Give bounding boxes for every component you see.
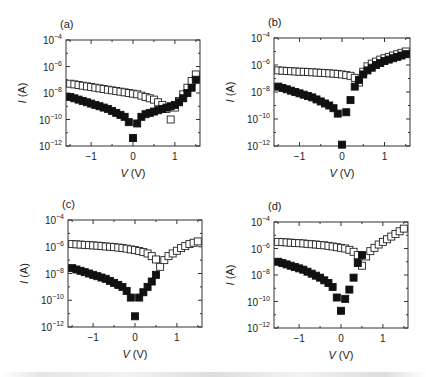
data-point-filled <box>333 294 340 301</box>
y-tick-label: 10−10 <box>247 295 270 308</box>
data-point-filled <box>339 141 346 148</box>
panel-label: (a) <box>60 18 73 30</box>
data-point-open <box>157 263 164 270</box>
data-point-open <box>194 238 201 245</box>
x-tick-label: 1 <box>172 151 178 162</box>
y-axis-label: I (A) <box>224 265 236 286</box>
y-tick-label: 10−12 <box>247 321 270 334</box>
y-tick-label: 10−6 <box>251 58 270 71</box>
x-tick-label: 0 <box>338 333 344 344</box>
y-tick-label: 10−12 <box>41 320 64 333</box>
x-tick-label: 0 <box>132 332 138 343</box>
y-tick-label: 10−4 <box>251 31 270 44</box>
data-point-filled <box>188 84 195 91</box>
data-point-open <box>167 116 174 123</box>
panel-label: (d) <box>268 200 281 212</box>
x-tick-label: −1 <box>87 332 99 343</box>
data-point-open <box>400 225 407 232</box>
panel-label: (c) <box>62 198 75 210</box>
y-tick-label: 10−4 <box>251 215 270 228</box>
y-tick-label: 10−8 <box>43 86 62 99</box>
y-tick-label: 10−10 <box>39 113 62 126</box>
y-tick-label: 10−8 <box>45 267 64 280</box>
data-point-filled <box>192 76 199 83</box>
data-point-filled <box>358 252 365 259</box>
data-point-filled <box>354 260 361 267</box>
y-tick-label: 10−4 <box>45 213 64 226</box>
y-tick-label: 10−6 <box>45 240 64 253</box>
y-tick-label: 10−10 <box>41 293 64 306</box>
y-tick-label: 10−8 <box>251 85 270 98</box>
data-point-filled <box>132 313 139 320</box>
y-tick-label: 10−6 <box>251 242 270 255</box>
x-tick-label: −1 <box>294 151 306 162</box>
chart-panel-b: (b)10−1210−1010−810−610−4−101V (V)I (A) <box>214 10 426 188</box>
y-tick-label: 10−8 <box>251 268 270 281</box>
data-point-filled <box>152 271 159 278</box>
chart-panel-a: (a)10−1210−1010−810−610−4−101V (V)I (A) <box>6 12 220 188</box>
y-tick-label: 10−12 <box>247 139 270 152</box>
y-tick-label: 10−10 <box>247 112 270 125</box>
x-axis-label: V (V) <box>329 167 354 179</box>
x-tick-label: −1 <box>85 151 97 162</box>
clipped-caption <box>0 372 426 377</box>
data-point-filled <box>350 274 357 281</box>
data-point-filled <box>134 120 141 127</box>
x-tick-label: 1 <box>174 332 180 343</box>
x-tick-label: 1 <box>382 151 388 162</box>
data-point-filled <box>125 119 132 126</box>
data-point-filled <box>338 307 345 314</box>
data-point-filled <box>347 97 354 104</box>
data-point-filled <box>329 283 336 290</box>
panel-label: (b) <box>268 16 281 28</box>
y-axis-label: I (A) <box>18 263 30 284</box>
y-tick-label: 10−12 <box>39 139 62 152</box>
x-axis-label: V (V) <box>122 348 147 360</box>
chart-panel-d: (d)10−1210−1010−810−610−4−101V (V)I (A) <box>214 194 426 370</box>
x-tick-label: 0 <box>339 151 345 162</box>
y-axis-label: I (A) <box>224 82 236 103</box>
data-point-filled <box>123 287 130 294</box>
y-tick-label: 10−4 <box>43 33 62 46</box>
data-point-filled <box>130 135 137 142</box>
x-tick-label: −1 <box>293 333 305 344</box>
x-tick-label: 1 <box>380 333 386 344</box>
data-point-filled <box>127 294 134 301</box>
data-point-open <box>152 256 159 263</box>
x-axis-label: V (V) <box>120 167 145 179</box>
data-point-filled <box>342 295 349 302</box>
y-tick-label: 10−6 <box>43 60 62 73</box>
x-axis-label: V (V) <box>328 349 353 361</box>
data-point-filled <box>346 286 353 293</box>
y-axis-label: I (A) <box>16 83 28 104</box>
x-tick-label: 0 <box>130 151 136 162</box>
data-point-filled <box>351 83 358 90</box>
data-point-filled <box>148 278 155 285</box>
data-point-filled <box>334 110 341 117</box>
data-point-filled <box>402 51 409 58</box>
chart-panel-c: (c)10−1210−1010−810−610−4−101V (V)I (A) <box>8 192 222 369</box>
data-point-filled <box>343 109 350 116</box>
